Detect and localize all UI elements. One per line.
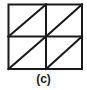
diagonal-top-right — [46, 5, 82, 37]
diagonal-bottom-left — [9, 37, 47, 70]
figure-caption: (c) — [0, 72, 87, 86]
diagonal-bottom-right — [46, 37, 82, 70]
grid-lines — [9, 5, 83, 70]
diagonal-top-left — [9, 5, 47, 37]
